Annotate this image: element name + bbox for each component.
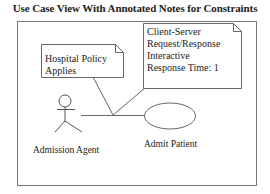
note-line: Request/Response <box>147 38 220 50</box>
note-anchor-line-right <box>113 88 145 115</box>
note-line: Response Time: 1 <box>147 62 220 74</box>
note-line: Client-Server <box>147 26 220 38</box>
actor-label: Admission Agent <box>33 144 99 156</box>
note-client-server-text: Client-Server Request/Response Interacti… <box>147 26 220 74</box>
note-hospital-policy-text: Hospital Policy Applies <box>45 53 107 77</box>
note-line: Applies <box>45 65 107 77</box>
diagram-canvas <box>0 0 270 194</box>
actor-stick-figure[interactable] <box>55 95 82 132</box>
use-case-label: Admit Patient <box>144 138 197 150</box>
use-case-ellipse[interactable] <box>145 103 196 129</box>
note-line: Interactive <box>147 50 220 62</box>
note-anchor-line-left <box>93 77 113 115</box>
note-line: Hospital Policy <box>45 53 107 65</box>
